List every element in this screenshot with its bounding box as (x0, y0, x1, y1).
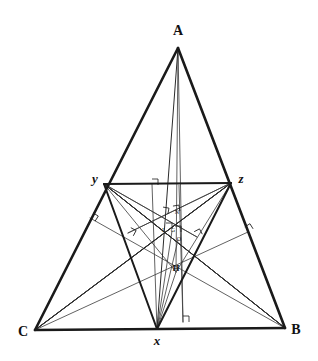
point-label-B: B (291, 322, 300, 337)
point-label-O: O (177, 236, 182, 242)
segment-yz (104, 183, 231, 184)
point-label-A: A (173, 23, 184, 38)
point-label-x: x (153, 333, 161, 348)
point-label-G: G (171, 227, 176, 233)
point-label-C: C (18, 324, 28, 339)
point-label-N: N (175, 209, 180, 215)
point-label-y: y (90, 171, 98, 186)
point-label-z: z (237, 171, 244, 186)
point-label-H: H (172, 263, 179, 273)
point-label-I: I (162, 227, 164, 233)
geometry-canvas: ABCxyzHOGNI (0, 0, 318, 361)
geometry-figure: ABCxyzHOGNI (0, 0, 318, 361)
